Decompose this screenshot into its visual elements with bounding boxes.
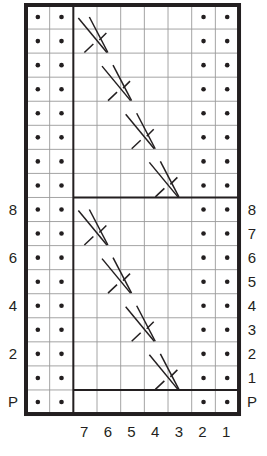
- right-row-label: 7: [248, 225, 256, 242]
- right-row-label: 1: [248, 369, 256, 386]
- purl-dot: [59, 376, 64, 381]
- column-number-labels: 7654321: [80, 423, 230, 440]
- cable-symbol: [78, 209, 108, 245]
- purl-dot: [59, 231, 64, 236]
- purl-dot: [59, 279, 64, 284]
- cable-back-line: [99, 33, 106, 40]
- cable-back-line: [132, 140, 141, 149]
- column-label: 6: [104, 423, 112, 440]
- purl-dot: [201, 15, 206, 20]
- purl-dot: [201, 39, 206, 44]
- purl-dot: [225, 135, 230, 140]
- purl-dot: [201, 255, 206, 260]
- right-row-label: 6: [248, 249, 256, 266]
- purl-dot: [225, 231, 230, 236]
- cable-back-line: [132, 333, 141, 342]
- purl-dot: [36, 400, 41, 405]
- left-row-label: 2: [9, 345, 17, 362]
- purl-dot: [201, 231, 206, 236]
- cable-back-line: [108, 92, 117, 101]
- left-row-label: 8: [9, 201, 17, 218]
- purl-dot: [201, 183, 206, 188]
- cable-back-line: [170, 177, 177, 184]
- cable-symbols: [78, 17, 179, 389]
- purl-dot: [201, 111, 206, 116]
- purl-dot: [201, 352, 206, 357]
- purl-dot: [36, 231, 41, 236]
- purl-dot: [201, 63, 206, 68]
- left-row-labels: 8642P: [8, 201, 18, 410]
- purl-dot: [201, 159, 206, 164]
- purl-dot: [59, 328, 64, 333]
- purl-dot: [59, 255, 64, 260]
- purl-dot: [201, 303, 206, 308]
- purl-dot: [36, 207, 41, 212]
- left-row-label: P: [8, 393, 18, 410]
- purl-dot: [36, 328, 41, 333]
- cable-back-line: [155, 188, 164, 197]
- purl-dot: [36, 352, 41, 357]
- purl-dot: [36, 255, 41, 260]
- purl-dot: [225, 183, 230, 188]
- purl-dot: [225, 87, 230, 92]
- purl-dot: [225, 352, 230, 357]
- cable-back-line: [84, 44, 93, 53]
- left-row-label: 4: [9, 297, 17, 314]
- cable-symbol: [149, 354, 179, 390]
- purl-dot: [36, 183, 41, 188]
- column-label: 1: [222, 423, 230, 440]
- purl-dot: [59, 111, 64, 116]
- right-row-label: 3: [248, 321, 256, 338]
- right-row-label: 8: [248, 201, 256, 218]
- purl-dot: [59, 183, 64, 188]
- column-label: 4: [151, 423, 159, 440]
- purl-dot: [225, 255, 230, 260]
- column-label: 7: [80, 423, 88, 440]
- cable-back-line: [108, 285, 117, 294]
- purl-dot: [201, 207, 206, 212]
- right-row-label: 4: [248, 297, 256, 314]
- cable-back-line: [170, 370, 177, 377]
- purl-stitches: [36, 15, 230, 405]
- chart-border: [26, 5, 239, 414]
- purl-dot: [225, 279, 230, 284]
- purl-dot: [201, 328, 206, 333]
- purl-dot: [36, 111, 41, 116]
- column-label: 5: [127, 423, 135, 440]
- purl-dot: [36, 279, 41, 284]
- purl-dot: [59, 303, 64, 308]
- cable-symbol: [102, 258, 132, 294]
- section-dividers: [73, 5, 239, 414]
- right-row-label: 2: [248, 345, 256, 362]
- column-label: 2: [198, 423, 206, 440]
- purl-dot: [36, 303, 41, 308]
- purl-dot: [225, 376, 230, 381]
- cable-back-line: [123, 81, 130, 88]
- purl-dot: [225, 328, 230, 333]
- cable-symbol: [78, 17, 108, 53]
- purl-dot: [36, 159, 41, 164]
- purl-dot: [36, 39, 41, 44]
- purl-dot: [59, 15, 64, 20]
- purl-dot: [225, 400, 230, 405]
- purl-dot: [225, 15, 230, 20]
- purl-dot: [201, 400, 206, 405]
- right-row-label: P: [247, 393, 257, 410]
- purl-dot: [59, 63, 64, 68]
- cable-back-line: [99, 225, 106, 232]
- purl-dot: [225, 207, 230, 212]
- cable-symbol: [126, 113, 156, 149]
- cable-symbol: [102, 65, 132, 101]
- column-label: 3: [175, 423, 183, 440]
- purl-dot: [225, 63, 230, 68]
- purl-dot: [59, 39, 64, 44]
- purl-dot: [59, 207, 64, 212]
- purl-dot: [225, 303, 230, 308]
- right-row-labels: 87654321P: [247, 201, 257, 410]
- purl-dot: [225, 159, 230, 164]
- purl-dot: [201, 135, 206, 140]
- knitting-chart: 7654321 8642P 87654321P: [0, 0, 267, 456]
- cable-back-line: [84, 236, 93, 245]
- purl-dot: [59, 352, 64, 357]
- grid-lines: [26, 5, 239, 414]
